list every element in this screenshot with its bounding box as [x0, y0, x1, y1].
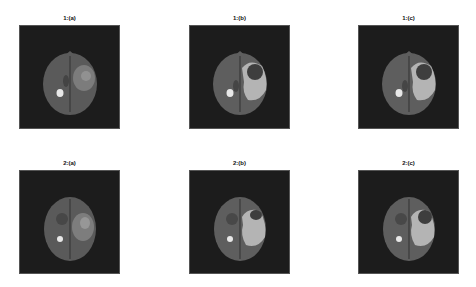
- edema-core: [81, 71, 91, 81]
- edema-core: [80, 217, 90, 229]
- panel-2b: 2:(b): [189, 170, 290, 274]
- panel-1b: 1:(b): [189, 25, 290, 129]
- tumor-core: [416, 64, 432, 80]
- dark-region: [226, 213, 238, 225]
- dark-ventricle: [233, 80, 239, 92]
- bright-lesion: [396, 236, 402, 242]
- bright-lesion: [227, 236, 233, 242]
- panel-1c: 1:(c): [358, 25, 459, 129]
- tumor-core: [250, 210, 262, 220]
- segmented-image: [189, 170, 290, 274]
- bright-lesion: [396, 89, 403, 97]
- panel-title: 1:(a): [19, 14, 120, 22]
- panel-title: 1:(c): [358, 14, 459, 22]
- segmented-image: [358, 25, 459, 129]
- bright-lesion: [57, 89, 64, 97]
- bright-lesion: [57, 236, 63, 242]
- panel-2a: 2:(a): [19, 170, 120, 274]
- mri-image: [19, 170, 120, 274]
- tumor-core: [418, 210, 432, 224]
- tumor-core: [247, 64, 263, 80]
- bright-lesion: [227, 89, 234, 97]
- dark-ventricle: [402, 80, 408, 92]
- segmented-image: [358, 170, 459, 274]
- panel-2c: 2:(c): [358, 170, 459, 274]
- segmented-image: [189, 25, 290, 129]
- panel-title: 2:(c): [358, 159, 459, 167]
- panel-title: 2:(a): [19, 159, 120, 167]
- panel-1a: 1:(a): [19, 25, 120, 129]
- dark-region: [395, 213, 407, 225]
- mri-image: [19, 25, 120, 129]
- dark-ventricle: [63, 75, 69, 87]
- dark-region: [56, 213, 68, 225]
- panel-title: 1:(b): [189, 14, 290, 22]
- panel-title: 2:(b): [189, 159, 290, 167]
